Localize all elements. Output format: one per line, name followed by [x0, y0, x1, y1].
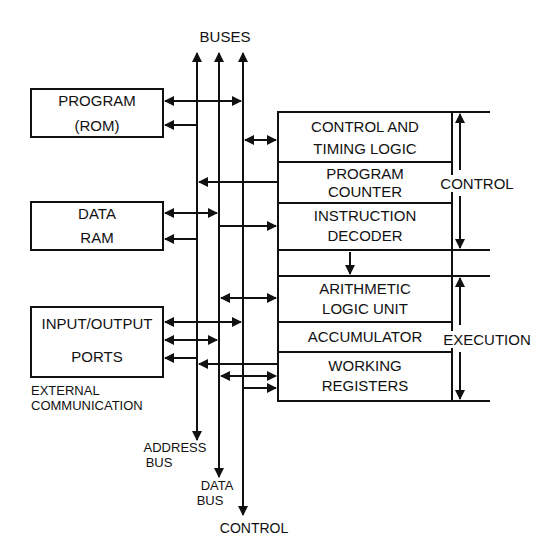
control-timing-label-1: CONTROL AND [278, 118, 452, 135]
address-bus-label-1: ADDRESS [135, 440, 215, 455]
working-registers-label-2: REGISTERS [278, 377, 452, 394]
buses-title: BUSES [190, 28, 260, 45]
instruction-decoder-label-2: DECODER [278, 227, 452, 244]
ports-label: PORTS [31, 348, 163, 365]
diagram-lines [0, 0, 559, 557]
data-bus-label-1: DATA [193, 478, 241, 493]
instruction-decoder-label-1: INSTRUCTION [278, 207, 452, 224]
control-section-label: CONTROL [432, 175, 522, 192]
alu-label-2: LOGIC UNIT [278, 300, 452, 317]
data-bus-label-2: BUS [190, 493, 230, 508]
accumulator-label: ACCUMULATOR [278, 328, 452, 345]
execution-section-label: EXECUTION [432, 331, 542, 348]
ram-label: RAM [31, 229, 163, 246]
program-label: PROGRAM [31, 92, 163, 109]
program-counter-label-2: COUNTER [278, 183, 452, 200]
external-label-2: COMMUNICATION [31, 398, 143, 413]
data-label: DATA [31, 205, 163, 222]
address-bus-label-2: BUS [135, 455, 183, 470]
external-label-1: EXTERNAL [31, 383, 100, 398]
working-registers-label-1: WORKING [278, 357, 452, 374]
control-bus-label: CONTROL [214, 520, 294, 537]
control-timing-label-2: TIMING LOGIC [278, 140, 452, 157]
program-counter-label-1: PROGRAM [278, 165, 452, 182]
io-label: INPUT/OUTPUT [31, 315, 163, 332]
alu-label-1: ARITHMETIC [278, 280, 452, 297]
rom-label: (ROM) [31, 117, 163, 134]
